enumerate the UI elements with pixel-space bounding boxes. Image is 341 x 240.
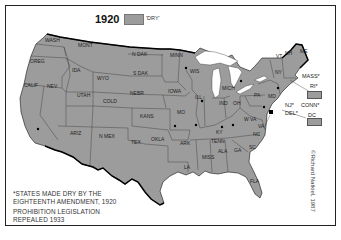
dry-state-asterisk-icon (185, 67, 187, 69)
state-label: GA (234, 147, 242, 153)
legend-dry-swatch (124, 14, 144, 25)
state-label: MD (268, 93, 276, 99)
state-label: NEBR (130, 90, 144, 96)
state-label: COLD (103, 98, 117, 104)
state-label: NH (285, 50, 293, 56)
state-label: SC (249, 144, 256, 150)
state-label: PA (254, 92, 261, 98)
footnote-line-4: REPEALED 1933 (13, 216, 64, 224)
state-label: N DAK (132, 51, 148, 57)
state-label: W VA (244, 116, 257, 122)
ri-inset-swatch (307, 91, 322, 99)
dc-marker (269, 110, 273, 114)
state-label: TENN (211, 138, 225, 144)
state-label: OKLA (151, 136, 165, 142)
state-label: WASH (45, 37, 60, 43)
copyright-credit: ©Richard Natkiel, 1987 (310, 150, 316, 212)
state-label: N MEX (99, 133, 116, 139)
map-title: 1920 (95, 13, 119, 25)
footnote-line-2: EIGHTEENTH AMENDMENT, 1920 (13, 198, 116, 206)
side-state-label: MASS* (302, 73, 320, 79)
state-label: WYO (97, 75, 109, 81)
dry-state-asterisk-icon (277, 87, 279, 89)
state-label: VT (276, 53, 282, 59)
state-label: IOWA (168, 88, 182, 94)
state-label: MINN (170, 52, 183, 58)
footnote-line-3: PROHIBITION LEGISLATION (13, 208, 100, 216)
state-label: NY (275, 69, 283, 75)
state-label: UTAH (77, 92, 91, 98)
side-state-label: DC (308, 112, 316, 118)
state-label: IDA (72, 67, 81, 73)
state-label: ARIZ (70, 130, 81, 136)
state-label: MISS (202, 154, 215, 160)
state-label: IND (219, 100, 228, 106)
dry-state-asterisk-icon (221, 126, 223, 128)
dry-state-asterisk-icon (232, 124, 234, 126)
side-state-label: NJ* (285, 102, 294, 108)
dry-state-asterisk-icon (174, 125, 176, 127)
state-label: OH (233, 100, 241, 106)
legend-dry-label: 'DRY' (146, 15, 160, 21)
state-label: ILL (195, 94, 202, 100)
state-label: ALA (218, 148, 228, 154)
state-label: KANS (140, 113, 154, 119)
us-landmass (20, 34, 308, 205)
side-state-label: CONN* (301, 102, 319, 108)
dc-inset-swatch (307, 118, 322, 126)
state-label: S DAK (133, 70, 149, 76)
dry-state-asterisk-icon (240, 80, 242, 82)
state-label: CALIF (24, 82, 38, 88)
side-state-label: RI* (310, 83, 318, 89)
state-label: TEX (131, 139, 141, 145)
lake-superior (195, 51, 238, 66)
state-label: NC (253, 131, 261, 137)
dry-state-asterisk-icon (201, 100, 203, 102)
state-label: MONT (78, 42, 93, 48)
dry-state-asterisk-icon (37, 128, 39, 130)
state-label: LA (184, 164, 191, 170)
footnote-line-1: *STATES MADE DRY BY THE (13, 190, 102, 198)
dry-state-asterisk-icon (195, 124, 197, 126)
state-label: MO (177, 109, 185, 115)
state-label: MICH (222, 85, 235, 91)
state-label: ARK (180, 140, 191, 146)
state-label: NEV (47, 83, 58, 89)
state-label: OREG (30, 58, 45, 64)
state-label: WIS (190, 68, 200, 74)
state-label: VA (258, 123, 265, 129)
dry-state-asterisk-icon (263, 106, 265, 108)
state-label: ME (300, 48, 308, 54)
state-label: FLA (250, 178, 260, 184)
state-label: KY (216, 129, 223, 135)
side-state-label: DEL* (285, 110, 298, 116)
